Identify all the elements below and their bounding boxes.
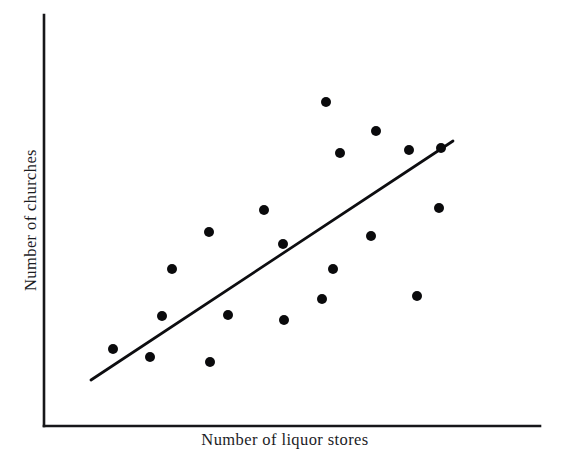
- data-point: [404, 145, 414, 155]
- data-point: [204, 227, 214, 237]
- data-point: [335, 148, 345, 158]
- data-point: [321, 97, 331, 107]
- data-point: [371, 126, 381, 136]
- y-axis-label-wrap: Number of churches: [0, 0, 40, 462]
- scatter-plot-figure: Number of liquor stores Number of church…: [0, 0, 570, 462]
- data-point: [259, 205, 269, 215]
- x-axis-label: Number of liquor stores: [0, 430, 570, 450]
- data-point: [223, 310, 233, 320]
- data-point: [167, 264, 177, 274]
- data-point: [366, 231, 376, 241]
- data-point: [157, 311, 167, 321]
- data-point: [108, 344, 118, 354]
- plot-canvas: [0, 0, 570, 462]
- data-point: [436, 143, 446, 153]
- data-point: [434, 203, 444, 213]
- data-point: [328, 264, 338, 274]
- data-point: [278, 239, 288, 249]
- data-point: [279, 315, 289, 325]
- data-point: [317, 294, 327, 304]
- y-axis-label: Number of churches: [21, 125, 41, 315]
- data-point: [412, 291, 422, 301]
- data-point: [205, 357, 215, 367]
- data-point: [145, 352, 155, 362]
- trend-line: [91, 141, 453, 380]
- data-point-group: [108, 97, 446, 367]
